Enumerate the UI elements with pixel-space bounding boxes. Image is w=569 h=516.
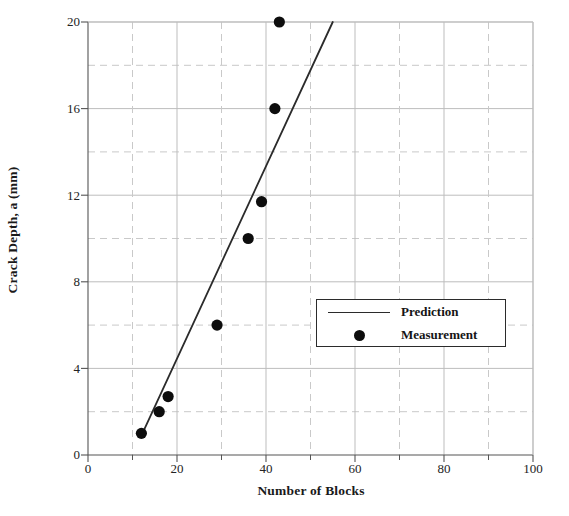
legend: Prediction Measurement [316,299,506,347]
data-point [243,233,254,244]
data-point [269,103,280,114]
legend-entry-measurement: Measurement [317,323,505,347]
data-point [256,196,267,207]
legend-label-measurement: Measurement [401,327,477,343]
plot-area [0,0,569,516]
data-point [136,428,147,439]
data-point [211,320,222,331]
data-point [163,391,174,402]
data-point [154,406,165,417]
axis-ticks [81,22,533,462]
legend-dot-icon [317,330,401,341]
measurement-points [136,16,285,439]
legend-label-prediction: Prediction [401,304,459,320]
prediction-line [141,22,332,436]
data-point [274,16,285,27]
legend-line-icon [317,312,401,313]
grid-major-vertical [177,22,533,455]
legend-entry-prediction: Prediction [317,300,505,324]
chart-figure: Crack Depth, a (mm) Number of Blocks 20 … [0,0,569,516]
